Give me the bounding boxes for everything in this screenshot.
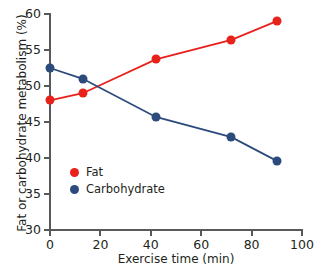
data-point-carbohydrate bbox=[46, 64, 55, 73]
data-point-carbohydrate bbox=[227, 133, 236, 142]
data-point-fat bbox=[78, 89, 87, 98]
data-point-fat bbox=[272, 17, 281, 26]
x-tick-label: 20 bbox=[92, 239, 108, 252]
data-point-fat bbox=[227, 35, 236, 44]
x-tick-mark bbox=[49, 230, 51, 236]
x-tick-mark bbox=[301, 230, 303, 236]
x-tick-mark bbox=[200, 230, 202, 236]
x-tick-mark bbox=[150, 230, 152, 236]
data-point-fat bbox=[151, 55, 160, 64]
legend-label-carbohydrate: Carbohydrate bbox=[86, 184, 165, 196]
chart-legend: Fat Carbohydrate bbox=[70, 164, 165, 198]
data-point-carbohydrate bbox=[272, 156, 281, 165]
data-point-carbohydrate bbox=[151, 112, 160, 121]
x-tick-label: 80 bbox=[244, 239, 260, 252]
x-tick-label: 60 bbox=[193, 239, 209, 252]
legend-marker-fat bbox=[70, 168, 79, 177]
x-tick-mark bbox=[251, 230, 253, 236]
x-tick-label: 100 bbox=[290, 239, 314, 252]
x-axis-title: Exercise time (min) bbox=[50, 253, 302, 265]
data-point-carbohydrate bbox=[78, 74, 87, 83]
x-tick-label: 40 bbox=[143, 239, 159, 252]
y-axis-title: Fat or carbohydrate metabolism (%) bbox=[16, 8, 28, 238]
legend-label-fat: Fat bbox=[86, 167, 103, 179]
legend-item-fat: Fat bbox=[70, 164, 165, 181]
x-tick-mark bbox=[99, 230, 101, 236]
plot-area: 30354045505560 020406080100 Fat Carbohyd… bbox=[50, 14, 302, 230]
data-point-fat bbox=[46, 96, 55, 105]
x-tick-label: 0 bbox=[46, 239, 54, 252]
chart-figure: 30354045505560 020406080100 Fat Carbohyd… bbox=[0, 0, 316, 271]
legend-item-carbohydrate: Carbohydrate bbox=[70, 181, 165, 198]
legend-marker-carbohydrate bbox=[70, 185, 79, 194]
